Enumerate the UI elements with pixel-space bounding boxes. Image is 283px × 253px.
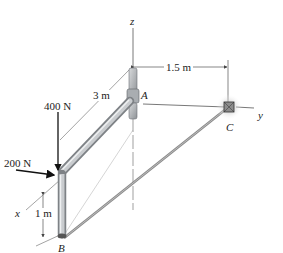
y-axis: [143, 104, 226, 107]
dim-1-5m-label: 1.5 m: [164, 62, 193, 73]
y-axis-label: y: [258, 110, 263, 121]
force-200n-arrow: [16, 170, 54, 175]
point-b-label: B: [58, 243, 65, 253]
dim-3m-label: 3 m: [93, 90, 110, 101]
force-400n-label: 400 N: [44, 101, 71, 112]
z-axis-label: z: [130, 16, 134, 27]
dim-1m-label: 1 m: [35, 208, 52, 219]
point-b-end: [58, 234, 67, 239]
force-200n-label: 200 N: [4, 158, 31, 169]
point-c-label: C: [226, 122, 233, 133]
point-a-label: A: [141, 90, 148, 101]
x-axis-label: x: [15, 208, 20, 219]
